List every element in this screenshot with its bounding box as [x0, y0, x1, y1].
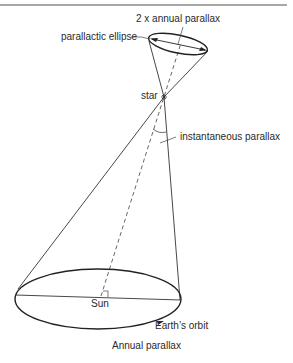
- instantaneous-parallax-label: instantaneous parallax: [180, 132, 280, 142]
- arrowhead-right-icon: [199, 47, 207, 51]
- arrowhead-left-icon: [150, 38, 158, 42]
- earths-orbit-label: Earth’s orbit: [155, 321, 208, 331]
- cone-right-edge: [164, 97, 180, 300]
- right-angle-mark: [103, 291, 108, 297]
- sun-star-dashed-line: [101, 43, 181, 296]
- cone-left-edge: [18, 97, 164, 289]
- diagram-caption: Annual parallax: [112, 341, 181, 351]
- diagram-canvas: [0, 0, 293, 363]
- annual-parallax-diagram: 2 x annual parallax parallactic ellipse …: [0, 0, 293, 363]
- upper-cone-right-edge: [164, 51, 208, 97]
- upper-cone-left-edge: [149, 41, 164, 97]
- two-x-annual-parallax-label: 2 x annual parallax: [136, 14, 220, 24]
- parallax-angle-arc: [153, 129, 166, 133]
- sun-label: Sun: [91, 299, 109, 309]
- parallactic-ellipse-label: parallactic ellipse: [61, 32, 137, 42]
- star-label: star: [141, 91, 158, 101]
